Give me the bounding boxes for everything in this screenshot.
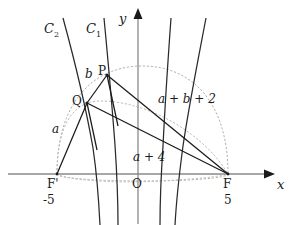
curve-4 bbox=[175, 18, 206, 225]
curve-label-c2: C2 bbox=[44, 22, 59, 39]
point-label-fprime: F' bbox=[47, 178, 59, 190]
curve-C2 bbox=[63, 18, 100, 225]
segment-label-b: b bbox=[85, 68, 93, 80]
geometry-figure: C2 C1 y x O P Q F 5 F' -5 b a a + 4 a + … bbox=[0, 0, 294, 225]
curve-3 bbox=[160, 18, 171, 225]
origin-label: O bbox=[132, 178, 142, 190]
point-marker-Q bbox=[85, 101, 88, 104]
curve-C1 bbox=[104, 18, 118, 225]
point-value-f: 5 bbox=[224, 194, 232, 206]
segment-label-a: a bbox=[52, 123, 59, 135]
segment-label-a-plus-4: a + 4 bbox=[133, 151, 165, 163]
segment-label-a-plus-b-plus-2: a + b + 2 bbox=[158, 93, 216, 105]
segment-P-F bbox=[107, 75, 228, 174]
axis-label-x: x bbox=[277, 178, 284, 191]
point-label-p: P bbox=[98, 65, 106, 77]
segment-Q-Fprime bbox=[57, 103, 87, 174]
point-marker-Fprime bbox=[56, 173, 59, 176]
point-label-f: F bbox=[223, 178, 231, 190]
point-value-fprime: -5 bbox=[43, 194, 55, 206]
point-label-q: Q bbox=[72, 95, 82, 107]
axis-y bbox=[134, 8, 143, 224]
point-marker-F bbox=[227, 173, 230, 176]
axis-label-y: y bbox=[119, 12, 126, 25]
curve-label-c1: C1 bbox=[86, 22, 101, 39]
